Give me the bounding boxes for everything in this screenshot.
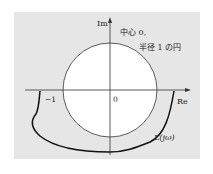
imag-axis-label: Im	[97, 19, 108, 28]
real-axis-label: Re	[177, 97, 188, 106]
circle-annotation-line2: 半径 1 の円	[139, 42, 181, 52]
minus-one-label: −1	[45, 95, 56, 104]
nyquist-diagram: Im Re 0 −1 中心 0, 半径 1 の円 L(jω)	[0, 0, 213, 174]
circle-annotation-line1: 中心 0,	[120, 27, 146, 37]
curve-label: L(jω)	[153, 133, 175, 142]
origin-label: 0	[113, 95, 118, 104]
